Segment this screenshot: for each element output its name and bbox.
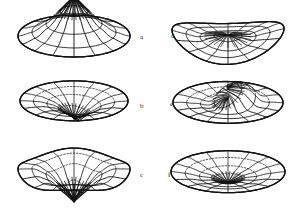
panel-label-f: f [168, 172, 170, 179]
panel-b [20, 81, 128, 122]
panel-label-d: d [171, 33, 175, 40]
panel-label-a: a [140, 34, 143, 41]
panel-a [18, 0, 130, 57]
mesh-line [20, 101, 74, 118]
wireframe-plot-group [0, 0, 302, 209]
panel-c [18, 148, 130, 202]
panel-label-b: b [140, 103, 144, 110]
mesh-line [207, 83, 228, 93]
panel-d [172, 22, 284, 65]
panel-label-e: e [170, 101, 173, 108]
panel-f [171, 151, 285, 193]
panel-e [173, 81, 283, 123]
mesh-line [226, 85, 228, 89]
mesh-line [188, 35, 228, 52]
figure-canvas: a b c d e f [0, 0, 302, 209]
panel-label-c: c [140, 172, 143, 179]
